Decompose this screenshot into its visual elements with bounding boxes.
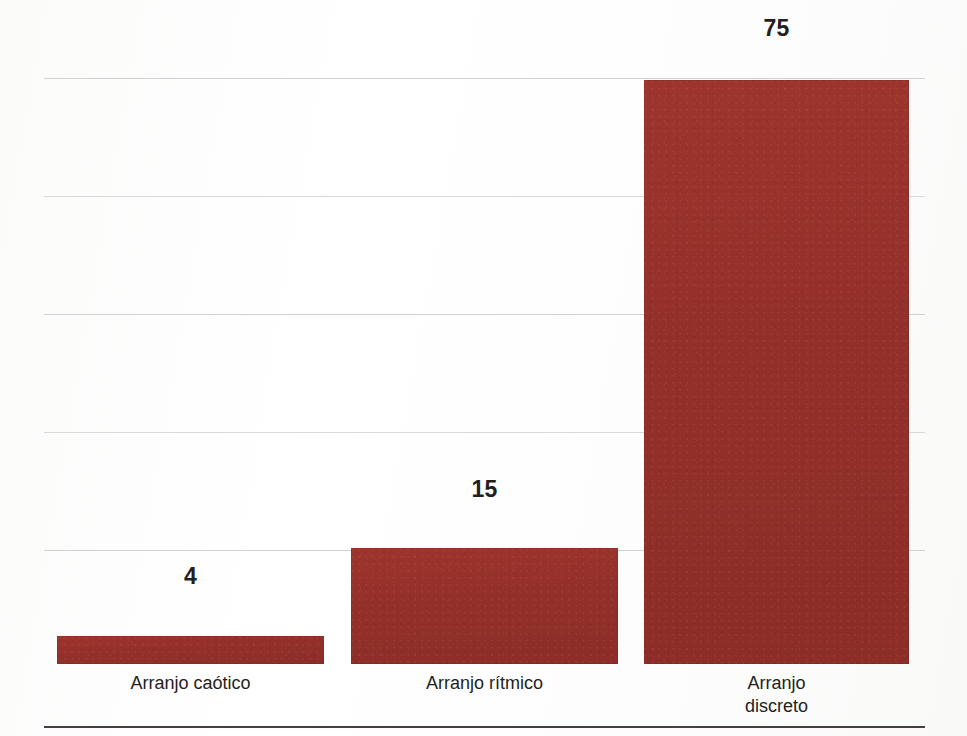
bar-arranjo-caotico[interactable] <box>57 636 324 664</box>
bar-arranjo-discreto[interactable] <box>644 80 909 664</box>
bottom-rule <box>44 726 925 728</box>
category-label-arranjo-discreto: Arranjo discreto <box>644 672 909 718</box>
bar-value-label-1: 4 <box>57 563 324 590</box>
gridline-top <box>44 78 925 79</box>
bar-value-label-3: 75 <box>644 15 909 42</box>
bar-arranjo-ritmico[interactable] <box>351 548 618 664</box>
bar-value-label-2: 15 <box>351 476 618 503</box>
category-label-arranjo-ritmico: Arranjo rítmico <box>351 672 618 695</box>
bar-chart-figure: 4 15 75 Arranjo caótico Arranjo rítmico … <box>0 0 967 736</box>
category-label-arranjo-caotico: Arranjo caótico <box>57 672 324 695</box>
